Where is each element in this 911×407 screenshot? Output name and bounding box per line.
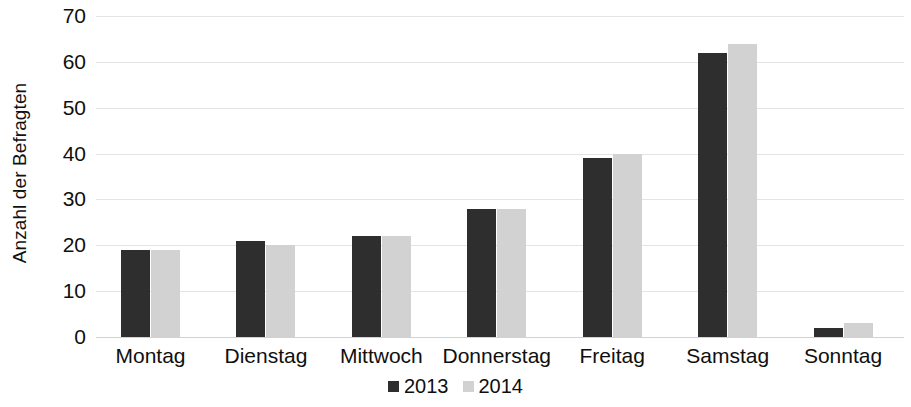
legend-swatch-icon xyxy=(388,381,399,392)
bar xyxy=(266,245,295,337)
chart-legend: 20132014 xyxy=(0,376,911,396)
legend-label: 2014 xyxy=(479,376,524,396)
bar-group xyxy=(814,16,873,337)
bar xyxy=(382,236,411,337)
bar-group xyxy=(698,16,757,337)
bar-group xyxy=(352,16,411,337)
y-tick-label-30: 30 xyxy=(40,188,86,209)
bar xyxy=(728,44,757,337)
bar-group xyxy=(121,16,180,337)
y-tick-label-70: 70 xyxy=(40,5,86,26)
legend-entry[interactable]: 2013 xyxy=(388,376,449,396)
bar-group xyxy=(583,16,642,337)
x-axis-tick-labels: MontagDienstagMittwochDonnerstagFreitagS… xyxy=(96,341,904,373)
bar xyxy=(467,209,496,337)
bar-group xyxy=(467,16,526,337)
y-tick-label-60: 60 xyxy=(40,51,86,72)
y-axis-tick-labels: 010203040506070 xyxy=(34,16,86,337)
bar xyxy=(352,236,381,337)
bar xyxy=(151,250,180,337)
bar xyxy=(497,209,526,337)
legend-swatch-icon xyxy=(463,381,474,392)
y-tick-label-40: 40 xyxy=(40,143,86,164)
x-tick-label: Sonntag xyxy=(763,341,911,371)
y-tick-label-10: 10 xyxy=(40,280,86,301)
bar xyxy=(121,250,150,337)
bar-group xyxy=(236,16,295,337)
bar xyxy=(814,328,843,337)
legend-entry[interactable]: 2014 xyxy=(463,376,524,396)
bar xyxy=(844,323,873,337)
bar xyxy=(583,158,612,337)
y-axis-title-text: Anzahl der Befragten xyxy=(9,82,31,263)
legend-label: 2013 xyxy=(404,376,449,396)
bar xyxy=(613,154,642,337)
y-tick-label-20: 20 xyxy=(40,234,86,255)
bar xyxy=(698,53,727,337)
bar xyxy=(236,241,265,337)
bar-chart-figure: Anzahl der Befragten 010203040506070 Mon… xyxy=(0,0,911,407)
bars-layer xyxy=(96,16,904,337)
y-tick-label-50: 50 xyxy=(40,97,86,118)
gridline-0 xyxy=(96,337,904,338)
plot-area xyxy=(96,16,904,337)
